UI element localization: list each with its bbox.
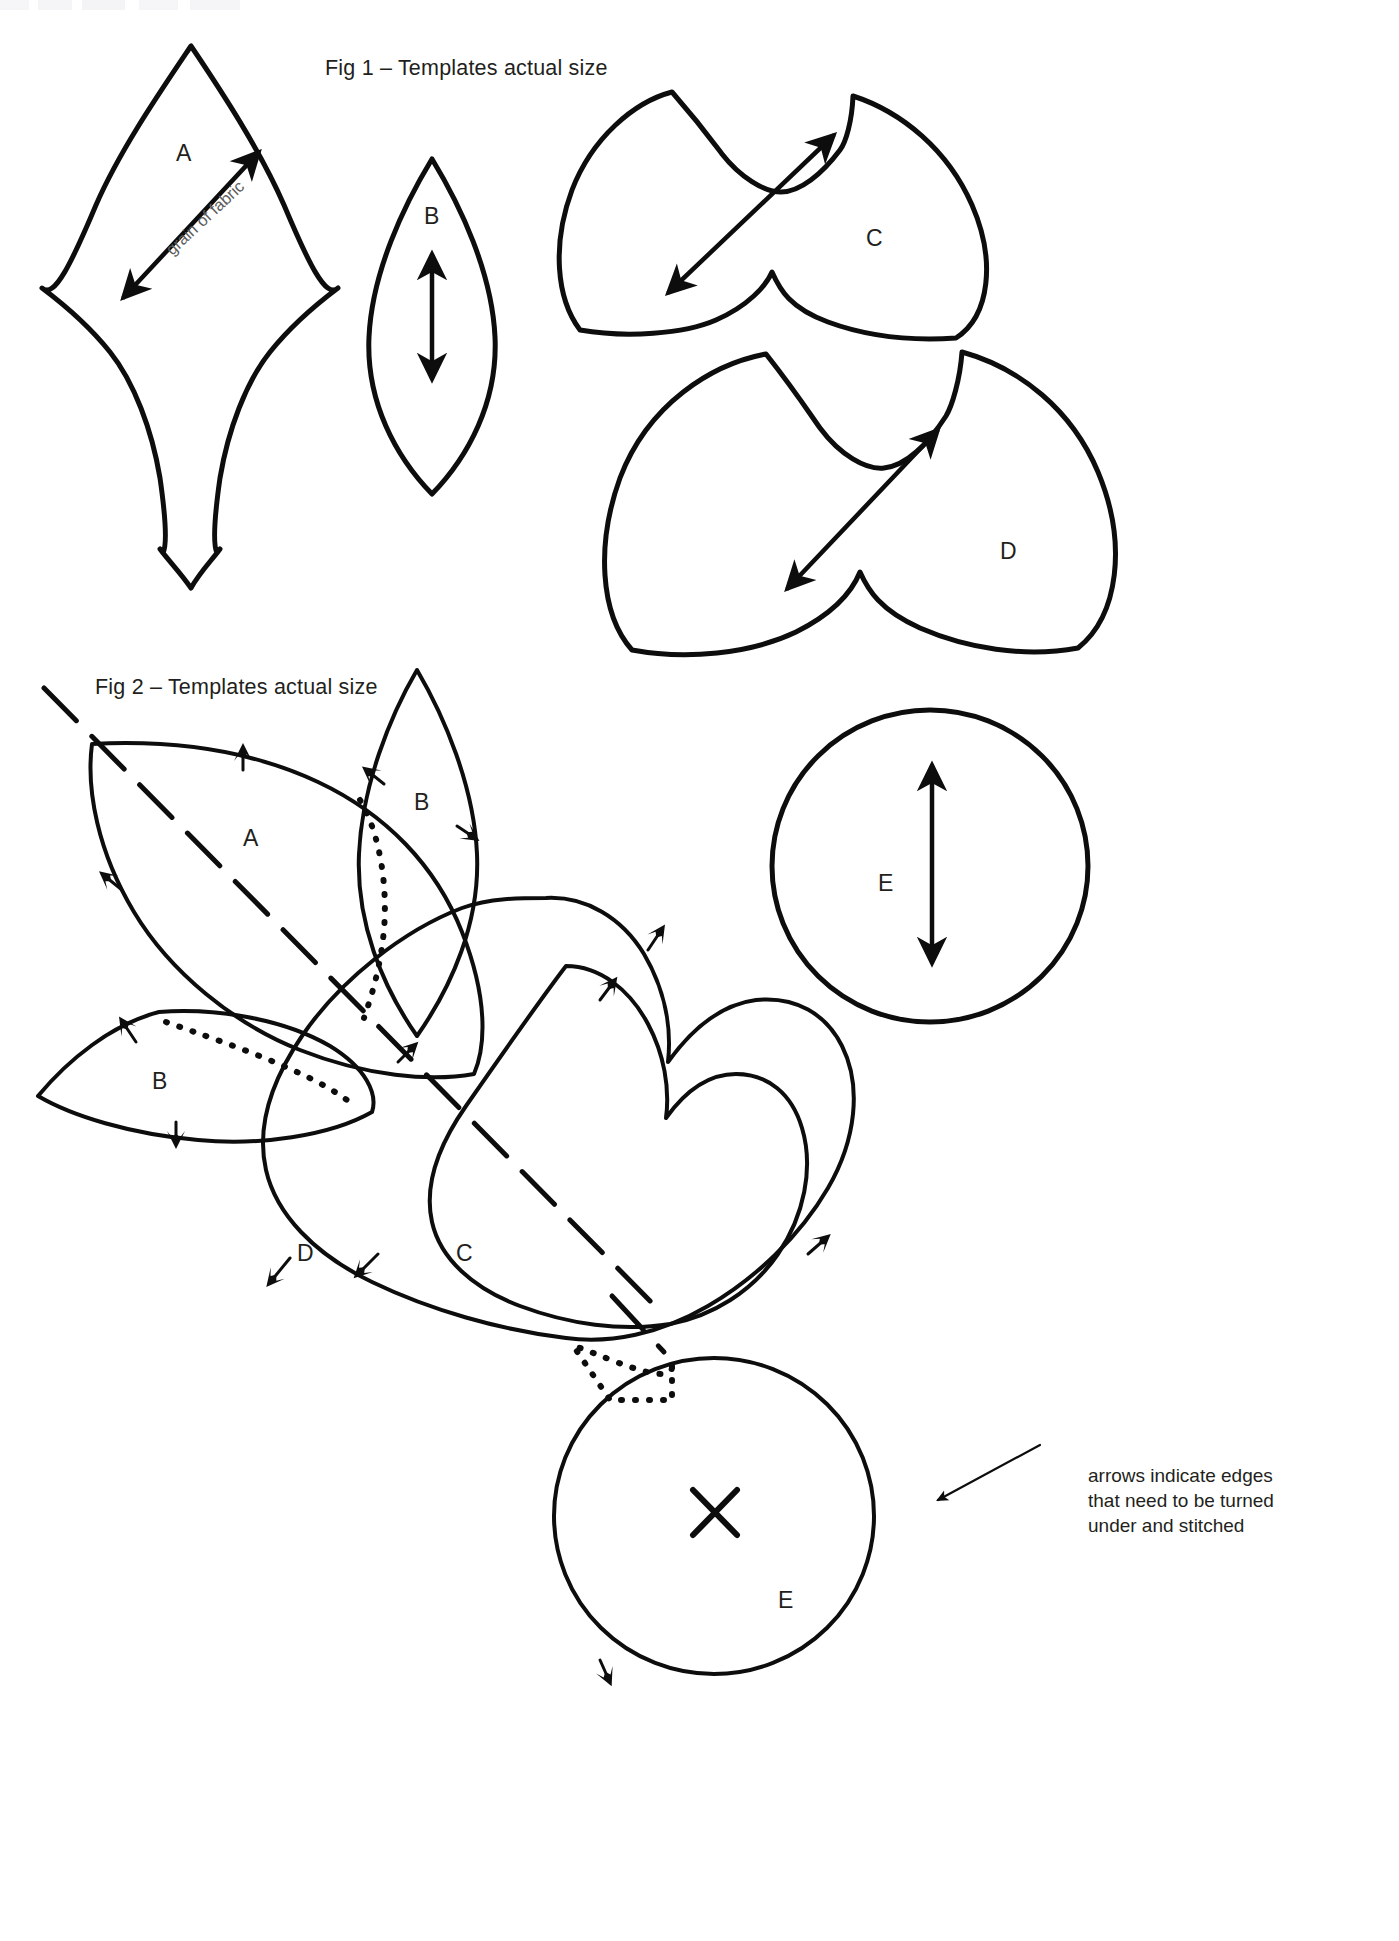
fig2-piece-e-seam: [570, 1344, 672, 1400]
annotation-line-1: arrows indicate edges: [1088, 1463, 1273, 1488]
template-sheet: Fig 1 – Templates actual size A grain of…: [0, 0, 1399, 1941]
fig1-label-c: C: [866, 225, 883, 252]
fig1-piece-d-shape: [605, 352, 1116, 655]
fig2-label-d: D: [297, 1240, 314, 1267]
fig1-piece-c-grain-arrow: [669, 136, 833, 292]
annotation-line-3: under and stitched: [1088, 1513, 1244, 1538]
fig1-label-b: B: [424, 203, 440, 230]
fig1-label-a: A: [176, 140, 192, 167]
fig2-piece-b-left-seam: [166, 1022, 352, 1104]
fig2-label-b-left: B: [152, 1068, 168, 1095]
annotation-line-2: that need to be turned: [1088, 1488, 1274, 1513]
fig2-label-e: E: [778, 1587, 794, 1614]
fig2-piece-e-cross-mark: [693, 1490, 737, 1535]
fig2-label-c: C: [456, 1240, 473, 1267]
fig2-piece-b-left-shape: [38, 1011, 373, 1142]
fig2-piece-c-turn-arrows: [360, 984, 612, 1272]
fig2-piece-b-left-turn-arrows: [124, 1024, 176, 1140]
fig1-title: Fig 1 – Templates actual size: [325, 56, 608, 81]
fig1-piece-d-grain-arrow: [788, 431, 937, 588]
fig2-label-a: A: [243, 825, 259, 852]
fig2-label-b-upper: B: [414, 789, 430, 816]
fig1-label-d: D: [1000, 538, 1017, 565]
piece-e-circle-label: E: [878, 870, 894, 897]
pattern-artwork: [0, 0, 1399, 1941]
fig1-piece-a-shape: [42, 46, 338, 588]
fig1-piece-c-shape: [559, 92, 986, 339]
fig2-fold-line: [44, 688, 662, 1313]
fig2-title: Fig 2 – Templates actual size: [95, 675, 378, 700]
fig2-piece-c-shape: [430, 966, 807, 1327]
annotation-leader-arrow: [938, 1445, 1040, 1500]
